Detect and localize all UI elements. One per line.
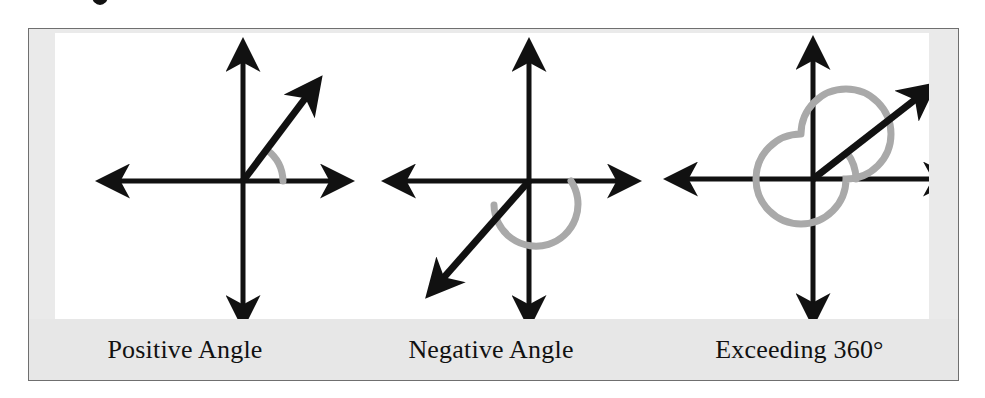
angle-sweep-arc-overshoot	[847, 153, 856, 179]
terminal-ray	[813, 95, 921, 179]
caption-strip: Positive Angle Negative Angle Exceeding …	[29, 319, 958, 380]
diagram-exceeding-360	[55, 33, 929, 319]
caption-positive-angle: Positive Angle	[29, 337, 341, 363]
axes-exceeding-360	[679, 51, 929, 309]
diagram-panel	[55, 33, 929, 319]
angle-sweep-spiral-loop	[756, 89, 891, 224]
caption-negative-angle: Negative Angle	[341, 337, 641, 363]
figure-page: Positive Angle Negative Angle Exceeding …	[0, 0, 985, 398]
figure-frame: Positive Angle Negative Angle Exceeding …	[28, 28, 959, 381]
caption-exceeding-360: Exceeding 360°	[641, 337, 958, 363]
clipped-text-fragment	[92, 0, 108, 5]
